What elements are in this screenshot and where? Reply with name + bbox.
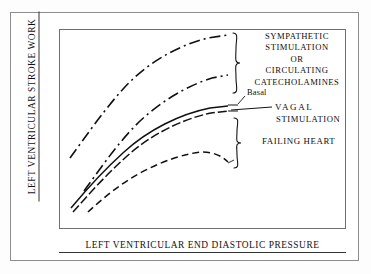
sympathetic-stimulation-label: SYMPATHETIC STIMULATION OR CIRCULATING C…: [247, 31, 347, 88]
basal-label: Basal: [247, 88, 267, 97]
sympathetic-line-1: SYMPATHETIC: [247, 31, 347, 42]
vagal-label: VAGAL: [275, 102, 313, 112]
vagal-stimulation-label: STIMULATION: [276, 114, 340, 124]
sympathetic-line-3: OR: [247, 54, 347, 65]
x-axis-label: LEFT VENTRICULAR END DIASTOLIC PRESSURE: [59, 240, 346, 253]
ventricular-function-curve-figure: LEFT VENTRICULAR STROKE WORK LEFT VENTRI…: [0, 0, 371, 274]
failing-heart-label: FAILING HEART: [262, 136, 335, 146]
y-axis-label: LEFT VENTRICULAR STROKE WORK: [27, 12, 40, 202]
sympathetic-line-2: STIMULATION: [247, 42, 347, 53]
sympathetic-line-5: CATECHOLAMINES: [247, 77, 347, 88]
sympathetic-line-4: CIRCULATING: [247, 65, 347, 76]
